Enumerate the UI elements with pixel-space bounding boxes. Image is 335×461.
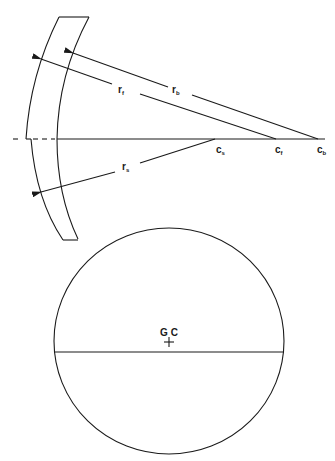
- lens-front-surface-lower: [31, 139, 63, 240]
- lens-diagram: rf rb rs cs cf cb G C: [0, 0, 335, 461]
- lens-cross-section: [26, 17, 89, 240]
- c-f-label: cf: [275, 144, 284, 156]
- r-s-label: rs: [122, 161, 130, 173]
- geometric-center-label: G C: [160, 327, 178, 338]
- radius-r-s: rs: [41, 139, 215, 192]
- radius-r-f: rf: [41, 59, 276, 139]
- r-b-label: rb: [172, 84, 180, 96]
- lens-front-view: G C: [54, 228, 284, 454]
- r-f-label: rf: [118, 84, 125, 96]
- radius-r-b: rb: [73, 53, 318, 139]
- r-s-arrow-segment-1: [41, 172, 115, 192]
- c-s-label: cs: [216, 144, 226, 156]
- lens-front-surface-upper: [26, 17, 59, 139]
- r-b-arrow-segment-1: [73, 53, 168, 87]
- lens-back-surface: [57, 17, 89, 239]
- c-b-label: cb: [317, 144, 327, 156]
- r-s-segment-2: [140, 139, 215, 163]
